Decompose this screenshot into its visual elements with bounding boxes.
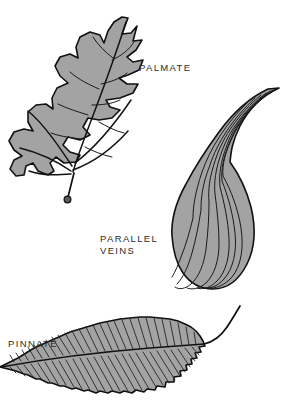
palmate-label: PALMATE: [139, 62, 191, 74]
leaf-venation-figure: PALMATE PARALLEL VEINS PINNATE: [0, 0, 284, 409]
palmate-branch-9: [85, 147, 112, 157]
parallel-leaf-blade: [172, 88, 279, 289]
pinnate-petiole: [204, 306, 240, 344]
parallel-veins-leaf-diagram: [172, 88, 279, 289]
palmate-leaf-blade: [9, 17, 143, 176]
pinnate-label: PINNATE: [8, 338, 58, 350]
parallel-veins-label: PARALLEL VEINS: [100, 233, 158, 257]
palmate-leaf-blade-group: [9, 17, 143, 203]
palmate-petiole-knob: [64, 196, 71, 203]
palmate-petiole: [68, 173, 74, 197]
